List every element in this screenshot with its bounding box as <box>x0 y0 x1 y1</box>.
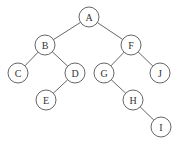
node-label: H <box>129 95 136 106</box>
edge-f-g <box>111 52 124 66</box>
edge-g-h <box>111 80 125 93</box>
node-i: I <box>151 117 171 137</box>
node-c: C <box>8 63 28 83</box>
nodes-group: ABFCDGJEHI <box>8 7 171 137</box>
edge-f-j <box>138 52 153 66</box>
node-f: F <box>121 35 141 55</box>
node-b: B <box>35 35 55 55</box>
node-label: J <box>158 68 162 79</box>
edge-b-d <box>52 52 67 66</box>
node-label: G <box>100 68 107 79</box>
edge-a-b <box>53 22 80 39</box>
node-e: E <box>36 90 56 110</box>
node-label: B <box>42 40 49 51</box>
edge-a-f <box>97 23 122 40</box>
edge-b-c <box>25 52 38 66</box>
edge-d-e <box>53 80 67 93</box>
node-g: G <box>94 63 114 83</box>
node-label: C <box>15 68 22 79</box>
node-d: D <box>65 63 85 83</box>
node-label: D <box>71 68 78 79</box>
tree-diagram: ABFCDGJEHI <box>0 0 178 145</box>
node-a: A <box>79 7 99 27</box>
edge-h-i <box>140 107 154 120</box>
node-j: J <box>150 63 170 83</box>
node-label: F <box>128 40 134 51</box>
tree-svg: ABFCDGJEHI <box>0 0 178 145</box>
node-label: A <box>85 12 93 23</box>
node-h: H <box>123 90 143 110</box>
node-label: E <box>43 95 49 106</box>
node-label: I <box>159 122 162 133</box>
